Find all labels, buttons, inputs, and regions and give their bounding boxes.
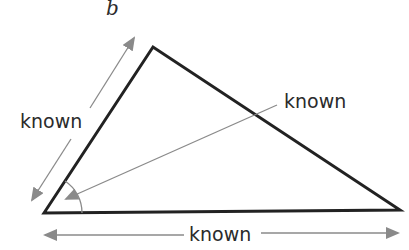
angle-label: known xyxy=(284,92,346,111)
angle-pointer-arrow xyxy=(66,105,277,199)
vertex-label-b: b xyxy=(106,0,119,18)
angle-arc xyxy=(65,181,82,213)
left-side-arrow-down xyxy=(32,139,71,200)
left-side-label: known xyxy=(20,112,82,131)
triangle-diagram: b known known known xyxy=(0,0,409,250)
left-side-arrow-up xyxy=(90,38,134,108)
bottom-side-label: known xyxy=(189,225,251,244)
